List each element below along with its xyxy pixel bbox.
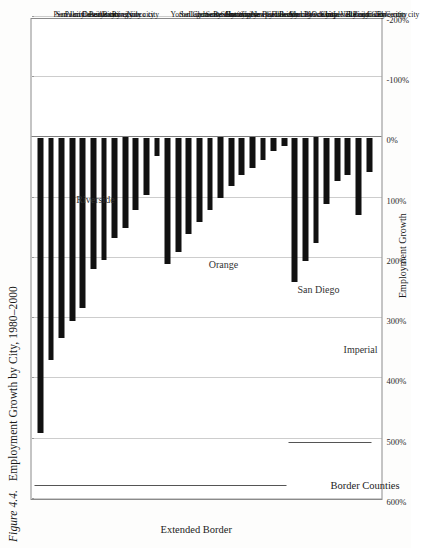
bar (111, 138, 117, 239)
tick-label: 0% (386, 136, 397, 146)
bar (313, 138, 319, 243)
tick-label: 500% (386, 437, 406, 447)
bar (132, 138, 138, 210)
tick-label: 300% (386, 316, 406, 326)
county-label-orange: Orange (208, 259, 237, 270)
bar (69, 138, 75, 322)
bar (260, 138, 266, 161)
bar (175, 138, 181, 252)
bar (122, 138, 128, 228)
bar (196, 138, 202, 222)
county-label-riverside: Riverside (76, 194, 114, 205)
bar (48, 138, 54, 361)
county-label-imperial: Imperial (343, 344, 377, 355)
county-label-san-diego: San Diego (297, 284, 339, 295)
bar (37, 138, 43, 433)
bar (344, 138, 350, 175)
category-label: Norco city (127, 10, 159, 19)
bar (281, 138, 287, 146)
bar (58, 138, 64, 339)
bar (302, 138, 308, 262)
bracket-line (288, 442, 370, 443)
bar (366, 138, 372, 173)
tick-label: -200% (386, 15, 409, 25)
figure-caption: Figure 4.4.Employment Growth by City, 19… (6, 286, 18, 542)
plot-area: RiversideOrangeSan DiegoImperial (30, 18, 382, 500)
figure-title: Employment Growth by City, 1980–2000 (6, 286, 18, 490)
bracket-label: Border Counties (330, 480, 399, 491)
bar (185, 138, 191, 234)
bars-layer (31, 19, 381, 499)
bar (355, 138, 361, 215)
tick-label: 100% (386, 196, 406, 206)
bar (143, 138, 149, 195)
bar (154, 138, 160, 156)
bar (249, 138, 255, 168)
tick-label: 400% (386, 377, 406, 387)
axis-label: Employment Growth (396, 213, 407, 298)
bar (217, 138, 223, 198)
bracket-label: Extended Border (160, 524, 231, 535)
tick-label: -100% (386, 75, 409, 85)
bar (323, 138, 329, 204)
bar (228, 138, 234, 186)
bar (207, 138, 213, 210)
bracket-line (34, 485, 286, 486)
bar (270, 138, 276, 151)
bar (238, 138, 244, 175)
tick-label: 600% (386, 497, 406, 507)
bar (334, 138, 340, 181)
figure-number: Figure 4.4. (6, 490, 18, 542)
bar (79, 138, 85, 309)
bar (164, 138, 170, 265)
bar (291, 138, 297, 283)
